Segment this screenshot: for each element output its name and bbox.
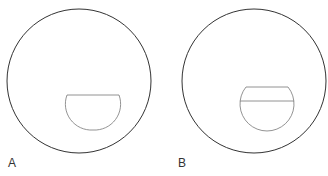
panel-label-a: A xyxy=(8,157,16,169)
outer-circle-b xyxy=(182,9,326,153)
panel-b xyxy=(182,9,326,153)
panel-label-b: B xyxy=(178,157,186,169)
diagram-canvas xyxy=(0,0,328,176)
panel-a xyxy=(7,9,151,153)
inner-truncated-circle-b xyxy=(240,87,294,131)
outer-circle-a xyxy=(7,9,151,153)
inner-semicircle-a xyxy=(65,95,120,130)
